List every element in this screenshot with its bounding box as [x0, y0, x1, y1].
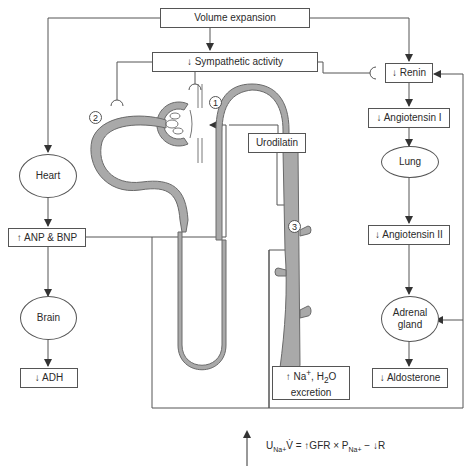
adh-box: ↓ ADH — [20, 368, 78, 388]
lung-node: Lung — [381, 146, 439, 178]
urodilatin-box: Urodilatin — [248, 133, 306, 153]
sodium-excretion-formula: UNa+V̇ = ↑GFR × PNa+ − ↓R — [266, 440, 385, 453]
adrenal-line-2: gland — [398, 319, 422, 331]
site-marker-1: 1 — [209, 96, 222, 109]
angiotensin-2-box: ↓ Angiotensin II — [368, 225, 450, 245]
renin-box: ↓ Renin — [385, 63, 433, 83]
adrenal-gland-node: Adrenal gland — [381, 296, 439, 342]
brain-node: Brain — [20, 296, 77, 340]
excretion-line-2: excretion — [291, 387, 332, 399]
aldosterone-box: ↓ Aldosterone — [372, 368, 448, 388]
up-arrow-icon — [242, 430, 252, 466]
sympathetic-activity-box: ↓ Sympathetic activity — [152, 52, 318, 72]
site-marker-3: 3 — [288, 220, 301, 233]
excretion-line-1: ↑ Na+, H2O — [286, 367, 337, 386]
volume-expansion-box: Volume expansion — [160, 8, 310, 28]
adrenal-line-1: Adrenal — [393, 307, 427, 319]
heart-node: Heart — [19, 154, 77, 198]
anp-bnp-box: ↑ ANP & BNP — [8, 228, 86, 247]
angiotensin-1-box: ↓ Angiotensin I — [368, 108, 450, 128]
site-marker-2: 2 — [89, 111, 102, 124]
na-h2o-excretion-box: ↑ Na+, H2O excretion — [272, 366, 350, 400]
